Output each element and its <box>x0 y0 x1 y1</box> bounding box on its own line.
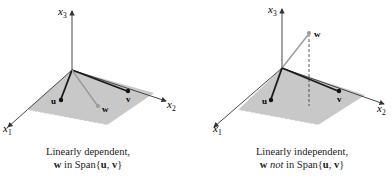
span-plane <box>27 70 154 125</box>
w-label: w <box>102 104 109 114</box>
point-v <box>337 89 341 93</box>
x1-label: x1 <box>2 122 12 137</box>
u-label: u <box>262 96 267 106</box>
u-label: u <box>51 96 56 106</box>
caption-independent: Linearly independent, w not in Span{u, v… <box>217 145 387 171</box>
point-w <box>96 104 100 108</box>
point-u <box>59 98 63 102</box>
caption-line-2: w in Span{u, v} <box>3 158 173 171</box>
v-label: v <box>337 94 342 104</box>
point-v <box>126 89 130 93</box>
x3-label: x3 <box>57 5 67 20</box>
vector-w <box>282 35 308 68</box>
caption-line-2: w not in Span{u, v} <box>217 158 387 171</box>
panel-independent <box>214 9 384 127</box>
point-w <box>307 31 311 35</box>
w-label: w <box>314 29 321 39</box>
caption-line-1: Linearly independent, <box>217 145 387 158</box>
caption-dependent: Linearly dependent, w in Span{u, v} <box>3 145 173 171</box>
x2-label: x2 <box>166 98 176 113</box>
x2-label: x2 <box>376 102 386 117</box>
x1-label: x1 <box>212 122 222 137</box>
x3-label: x3 <box>267 3 277 18</box>
caption-line-1: Linearly dependent, <box>3 145 173 158</box>
panel-dependent <box>8 11 166 127</box>
v-label: v <box>126 94 131 104</box>
point-u <box>269 98 273 102</box>
